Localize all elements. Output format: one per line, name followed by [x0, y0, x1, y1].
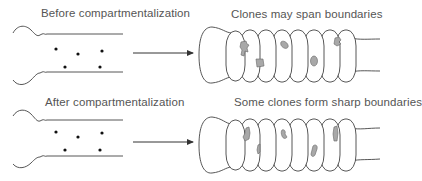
cell-dot — [63, 148, 66, 151]
cell-dot — [76, 135, 79, 138]
cell-dot — [54, 130, 57, 133]
cell-dot — [98, 148, 101, 151]
clone-patch — [333, 126, 338, 141]
segmented-embryo-bottom — [199, 117, 380, 173]
cell-dot — [63, 65, 66, 68]
clone-patch — [311, 56, 318, 66]
segmented-embryo-top — [199, 27, 380, 83]
clone-patch — [256, 59, 264, 67]
cell-dot — [100, 131, 103, 134]
early-embryo-top — [13, 26, 123, 84]
cell-dot — [100, 49, 103, 52]
early-embryo-bottom — [13, 110, 123, 168]
cell-dot — [98, 65, 101, 68]
cell-dot — [54, 47, 57, 50]
cell-dot — [76, 52, 79, 55]
